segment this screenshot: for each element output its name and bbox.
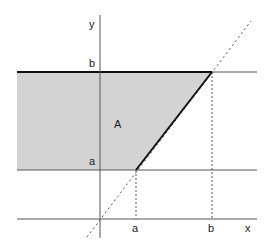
y-axis-label: y <box>89 18 95 30</box>
region-diagram: y b A a a b x <box>0 0 270 248</box>
y-tick-a: a <box>89 155 96 167</box>
y-tick-b: b <box>89 57 95 69</box>
x-axis-label: x <box>245 222 251 234</box>
x-tick-b: b <box>208 222 214 234</box>
region-label: A <box>114 118 122 130</box>
x-tick-a: a <box>132 222 139 234</box>
